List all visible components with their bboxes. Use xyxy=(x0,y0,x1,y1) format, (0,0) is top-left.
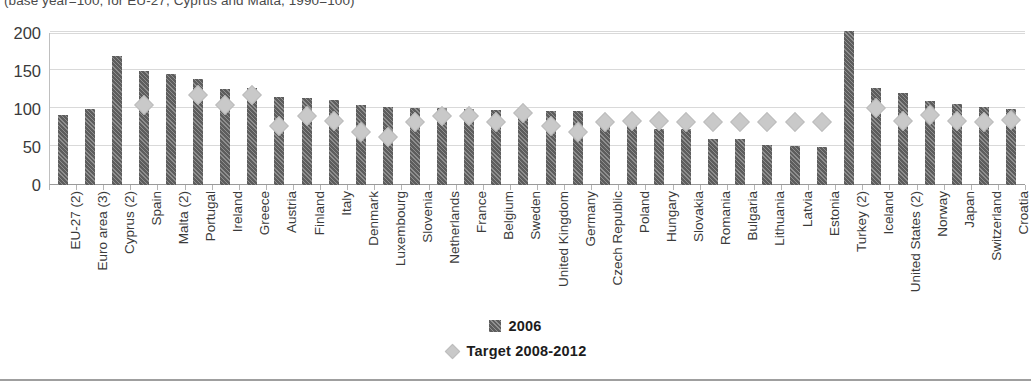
x-tick xyxy=(727,185,728,190)
x-axis-label: Denmark xyxy=(367,191,381,246)
x-tick xyxy=(754,185,755,190)
x-tick xyxy=(320,185,321,190)
x-axis-label: Ireland xyxy=(231,191,245,232)
x-axis-label: Spain xyxy=(150,191,164,226)
target-marker xyxy=(324,111,344,131)
target-marker xyxy=(134,95,154,115)
x-tick xyxy=(347,185,348,190)
x-axis-label: Cyprus (2) xyxy=(123,191,137,254)
x-tick xyxy=(374,185,375,190)
x-tick xyxy=(401,185,402,190)
x-axis-label: Belgium xyxy=(502,191,516,240)
x-tick xyxy=(971,185,972,190)
target-marker xyxy=(541,116,561,136)
x-axis-label: Poland xyxy=(638,191,652,233)
x-axis-label: Greece xyxy=(258,191,272,235)
x-tick xyxy=(808,185,809,190)
x-tick xyxy=(456,185,457,190)
x-tick xyxy=(1025,185,1026,190)
target-marker xyxy=(297,106,317,126)
target-marker xyxy=(893,111,913,131)
legend-item-target: Target 2008-2012 xyxy=(445,343,587,359)
x-axis-label: Slovakia xyxy=(692,191,706,242)
target-marker xyxy=(514,103,534,123)
x-axis-label: Norway xyxy=(936,191,950,237)
target-marker xyxy=(351,122,371,142)
x-axis-label: Estonia xyxy=(828,191,842,236)
gridline xyxy=(50,31,1025,32)
target-marker xyxy=(242,86,262,106)
target-marker xyxy=(432,106,452,126)
x-axis-label: United States (2) xyxy=(909,191,923,292)
target-marker xyxy=(215,95,235,115)
legend-item-2006: 2006 xyxy=(489,318,541,334)
target-marker xyxy=(703,112,723,132)
target-marker xyxy=(676,112,696,132)
legend-label-target: Target 2008-2012 xyxy=(467,343,587,359)
x-tick xyxy=(429,185,430,190)
x-tick xyxy=(889,185,890,190)
x-tick xyxy=(293,185,294,190)
y-axis: 050100150200 xyxy=(0,33,49,185)
x-axis-label: France xyxy=(475,191,489,233)
x-tick xyxy=(483,185,484,190)
x-axis-label: United Kingdom xyxy=(557,191,571,287)
x-tick xyxy=(944,185,945,190)
x-axis-label: Slovenia xyxy=(421,191,435,243)
x-axis-label: Bulgaria xyxy=(746,191,760,241)
x-tick xyxy=(266,185,267,190)
x-tick xyxy=(998,185,999,190)
x-axis-label: Italy xyxy=(340,191,354,216)
x-tick xyxy=(239,185,240,190)
target-marker xyxy=(568,122,588,142)
y-tick-label: 0 xyxy=(0,177,41,194)
target-marker xyxy=(785,112,805,132)
x-axis-label: Switzerland xyxy=(990,191,1004,261)
target-marker xyxy=(866,99,886,119)
target-marker xyxy=(622,111,642,131)
x-tick xyxy=(645,185,646,190)
target-marker xyxy=(920,105,940,125)
x-tick xyxy=(700,185,701,190)
x-tick xyxy=(591,185,592,190)
target-marker xyxy=(1002,110,1022,130)
x-tick xyxy=(49,185,50,190)
diamond-icon xyxy=(444,343,460,359)
x-axis-label: Hungary xyxy=(665,191,679,242)
x-axis-label: Czech Republic xyxy=(611,191,625,286)
target-marker xyxy=(649,111,669,131)
x-tick xyxy=(537,185,538,190)
hatched-square-icon xyxy=(489,320,501,332)
x-tick xyxy=(917,185,918,190)
x-axis-label: Luxembourg xyxy=(394,191,408,266)
legend-label-2006: 2006 xyxy=(508,318,541,334)
x-axis-label: Austria xyxy=(285,191,299,233)
x-axis-label: Latvia xyxy=(801,191,815,227)
target-marker xyxy=(188,85,208,105)
x-axis-label: Japan xyxy=(963,191,977,228)
x-axis-label: Iceland xyxy=(882,191,896,235)
x-axis-label: Germany xyxy=(584,191,598,247)
x-tick xyxy=(103,185,104,190)
x-axis-label: Euro area (3) xyxy=(96,191,110,271)
x-axis-label: Romania xyxy=(719,191,733,245)
x-tick xyxy=(157,185,158,190)
x-tick xyxy=(130,185,131,190)
x-tick xyxy=(618,185,619,190)
y-tick-label: 100 xyxy=(0,101,41,118)
x-axis-label: Sweden xyxy=(529,191,543,240)
target-marker xyxy=(974,112,994,132)
x-axis-label: Turkey (2) xyxy=(855,191,869,252)
target-marker xyxy=(405,112,425,132)
chart-legend: 2006 Target 2008-2012 xyxy=(0,318,1031,359)
x-axis-label: Portugal xyxy=(204,191,218,241)
target-marker xyxy=(947,111,967,131)
y-tick-label: 150 xyxy=(0,63,41,80)
target-marker xyxy=(270,116,290,136)
x-axis-label: Lithuania xyxy=(773,191,787,246)
target-marker xyxy=(378,127,398,147)
x-axis-label: Croatia xyxy=(1017,191,1031,235)
target-marker xyxy=(486,112,506,132)
x-tick xyxy=(564,185,565,190)
x-tick xyxy=(835,185,836,190)
